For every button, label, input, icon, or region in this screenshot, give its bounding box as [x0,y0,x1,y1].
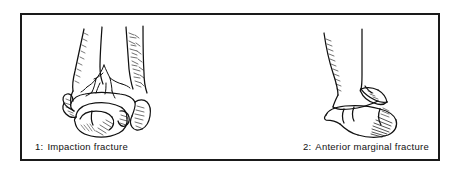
anterior-marginal-fracture-drawing [294,21,434,141]
caption-text-1: Impaction fracture [47,141,128,152]
figure-panel: 1:Impaction fracture 2:Anterior marginal… [20,13,440,161]
impaction-fracture-drawing [40,21,180,141]
caption-anterior-marginal-fracture: 2:Anterior marginal fracture [303,141,429,153]
caption-text-2: Anterior marginal fracture [315,141,429,152]
caption-index-2: 2: [303,141,311,152]
impaction-fracture-illustration [40,21,180,141]
caption-index-1: 1: [35,141,43,152]
caption-impaction-fracture: 1:Impaction fracture [35,141,128,153]
anterior-marginal-fracture-illustration [294,21,434,141]
